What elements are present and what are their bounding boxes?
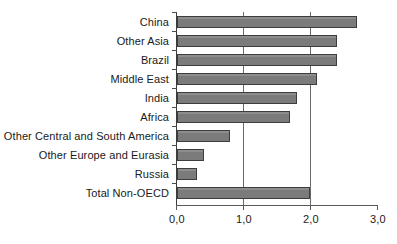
category-label-other-central-and-south-america: Other Central and South America	[4, 130, 169, 142]
x-axis-tick	[377, 205, 378, 210]
x-axis-tick-label-2: 2,0	[303, 213, 319, 225]
category-label-total-non-oecd: Total Non-OECD	[86, 187, 169, 199]
y-axis-tick	[172, 69, 177, 70]
category-label-africa: Africa	[140, 111, 169, 123]
y-axis-tick	[172, 107, 177, 108]
bar-india	[177, 92, 297, 104]
x-axis-tick-label-1: 1,0	[236, 213, 252, 225]
category-label-russia: Russia	[135, 168, 169, 180]
category-label-brazil: Brazil	[141, 54, 169, 66]
category-label-other-asia: Other Asia	[117, 35, 169, 47]
bar-brazil	[177, 54, 337, 66]
y-axis-tick	[172, 50, 177, 51]
bar-other-asia	[177, 35, 337, 47]
x-axis-tick-label-0: 0,0	[169, 213, 185, 225]
category-label-middle-east: Middle East	[110, 73, 169, 85]
category-label-india: India	[145, 92, 169, 104]
x-axis-tick	[310, 205, 311, 210]
x-axis-line	[176, 205, 377, 206]
bar-africa	[177, 111, 290, 123]
category-label-china: China	[140, 16, 169, 28]
bar-middle-east	[177, 73, 317, 85]
bar-china	[177, 16, 357, 28]
bar-other-europe-and-eurasia	[177, 149, 204, 161]
bar-other-central-and-south-america	[177, 130, 230, 142]
bar-russia	[177, 168, 197, 180]
bar-chart: China Other Asia Brazil Middle East Indi…	[0, 0, 397, 244]
category-label-other-europe-and-eurasia: Other Europe and Eurasia	[39, 149, 169, 161]
y-axis-tick	[172, 31, 177, 32]
y-axis-tick	[172, 126, 177, 127]
y-axis-tick	[172, 12, 177, 13]
y-axis-tick	[172, 164, 177, 165]
y-axis-tick	[172, 183, 177, 184]
x-axis-tick	[176, 205, 177, 210]
bar-total-non-oecd	[177, 187, 310, 199]
y-axis-tick	[172, 88, 177, 89]
x-axis-tick-label-3: 3,0	[370, 213, 386, 225]
y-axis-tick	[172, 145, 177, 146]
x-axis-tick	[243, 205, 244, 210]
